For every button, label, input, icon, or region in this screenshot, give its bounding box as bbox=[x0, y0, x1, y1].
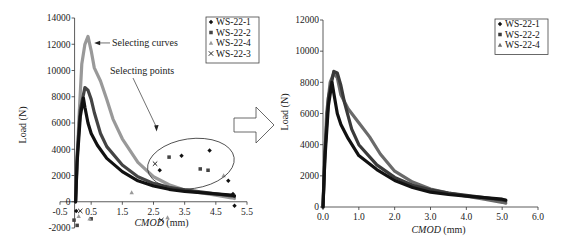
x-tick-label: 3.0 bbox=[425, 212, 437, 222]
y-tick-label: 0 bbox=[314, 202, 319, 212]
x-tick-label: -0.5 bbox=[52, 207, 67, 217]
x-tick-label: 4.5 bbox=[210, 207, 222, 217]
x-axis-label: CMOD (mm) bbox=[411, 224, 465, 236]
y-tick-label: 0 bbox=[66, 197, 71, 207]
y-tick-label: 12000 bbox=[295, 15, 319, 25]
y-tick-label: 14000 bbox=[47, 13, 71, 23]
x-tick-label: 3.5 bbox=[179, 207, 191, 217]
x-tick-label: 0.0 bbox=[317, 212, 329, 222]
data-point-ws-22-3 bbox=[78, 209, 82, 213]
y-tick-label: 12000 bbox=[47, 40, 71, 50]
data-point-ws-22-2 bbox=[206, 168, 210, 172]
x-axis-label-unit: (mm) bbox=[441, 224, 466, 236]
y-tick-label: 10000 bbox=[295, 46, 319, 56]
legend-label: WS-22-2 bbox=[505, 30, 540, 40]
legend-label: WS-22-1 bbox=[505, 19, 540, 29]
chart-right: 0200040006000800010000120000.01.02.03.04… bbox=[279, 15, 548, 236]
chart-left: -200002000400060008000100001200014000-0.… bbox=[17, 13, 259, 233]
x-tick-label: 2.0 bbox=[389, 212, 401, 222]
y-tick-label: 8000 bbox=[300, 78, 319, 88]
legend-marker-square bbox=[209, 31, 213, 35]
annotation-pointer-line bbox=[133, 78, 157, 128]
x-tick-label: 1.5 bbox=[116, 207, 128, 217]
x-axis-label: CMOD (mm) bbox=[134, 217, 188, 229]
data-point-ws-22-3 bbox=[153, 161, 157, 165]
data-point-ws-22-4 bbox=[77, 214, 81, 218]
data-point-ws-22-2 bbox=[167, 155, 171, 159]
legend-label: WS-22-2 bbox=[216, 28, 251, 38]
legend: WS-22-1WS-22-2WS-22-4WS-22-3 bbox=[206, 17, 259, 63]
series-curve-ws-22-1 bbox=[323, 82, 506, 207]
data-point-ws-22-1 bbox=[207, 148, 211, 152]
y-tick-label: 4000 bbox=[300, 140, 319, 150]
annotation-arrowhead bbox=[94, 41, 100, 45]
data-point-ws-22-4 bbox=[129, 190, 133, 194]
data-point-ws-22-1 bbox=[232, 203, 236, 207]
annotation-pointer-head bbox=[154, 125, 159, 132]
legend-label: WS-22-3 bbox=[216, 49, 251, 59]
data-point-ws-22-2 bbox=[72, 218, 76, 222]
annotation-selecting-points: Selecting points bbox=[110, 65, 174, 76]
y-tick-label: 2000 bbox=[300, 171, 319, 181]
right-arrow-icon bbox=[234, 107, 274, 143]
y-tick-label: 2000 bbox=[52, 171, 71, 181]
x-tick-label: 2.5 bbox=[148, 207, 160, 217]
x-tick-label: 0.5 bbox=[85, 207, 97, 217]
x-tick-label: 5.5 bbox=[241, 207, 253, 217]
data-point-ws-22-2 bbox=[198, 167, 202, 171]
legend-label: WS-22-4 bbox=[505, 40, 540, 50]
y-tick-label: 10000 bbox=[47, 66, 71, 76]
data-point-ws-22-1 bbox=[158, 168, 162, 172]
y-tick-label: 6000 bbox=[300, 109, 319, 119]
legend: WS-22-1WS-22-2WS-22-4 bbox=[495, 19, 548, 55]
y-tick-label: 4000 bbox=[52, 145, 71, 155]
data-point-ws-22-2 bbox=[75, 224, 79, 228]
x-tick-label: 6.0 bbox=[532, 212, 544, 222]
legend-marker-square bbox=[498, 33, 502, 37]
data-point-ws-22-1 bbox=[226, 179, 230, 183]
legend-label: WS-22-4 bbox=[216, 38, 251, 48]
legend-label: WS-22-1 bbox=[216, 17, 251, 27]
y-tick-label: -2000 bbox=[48, 223, 70, 233]
x-tick-label: 4.0 bbox=[460, 212, 472, 222]
figure: -200002000400060008000100001200014000-0.… bbox=[0, 0, 567, 247]
data-point-ws-22-1 bbox=[179, 154, 183, 158]
y-axis-label: Load (N) bbox=[279, 94, 291, 131]
x-tick-label: 1.0 bbox=[353, 212, 365, 222]
x-axis-label-italic: CMOD bbox=[411, 224, 441, 235]
y-axis-label: Load (N) bbox=[17, 107, 29, 144]
y-tick-label: 6000 bbox=[52, 118, 71, 128]
annotation-selecting-curves: Selecting curves bbox=[112, 37, 178, 48]
x-tick-label: 5.0 bbox=[496, 212, 508, 222]
y-tick-label: 8000 bbox=[52, 92, 71, 102]
